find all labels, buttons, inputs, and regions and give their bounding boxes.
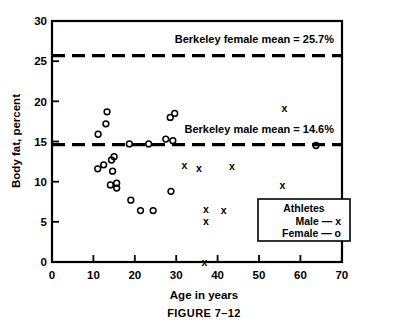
x-axis-title: Age in years	[170, 289, 238, 301]
y-axis-tick-labels: 0 5 10 15 20 25 30	[34, 15, 47, 268]
data-point-female	[170, 138, 176, 144]
female-mean-label: Berkeley female mean = 25.7%	[175, 33, 335, 45]
figure-caption-text: FIGURE 7–12	[167, 307, 240, 319]
data-point-female	[172, 110, 178, 116]
data-point-male: x	[280, 179, 286, 191]
y-axis-title: Body fat, percent	[10, 94, 22, 188]
figure-caption: FIGURE 7–12	[0, 303, 408, 321]
figure-container: 0 5 10 15 20 25 30 0 10 20 30 40 50	[0, 0, 408, 325]
x-tick-label: 70	[335, 269, 348, 281]
data-point-female	[150, 208, 156, 214]
x-tick-label: 60	[294, 269, 307, 281]
x-tick-label: 30	[170, 269, 183, 281]
y-tick-label: 30	[34, 15, 47, 27]
data-point-male: x	[281, 102, 287, 114]
data-point-female	[138, 208, 144, 214]
data-point-female	[126, 141, 132, 147]
male-mean-label: Berkeley male mean = 14.6%	[184, 123, 334, 135]
data-point-male: x	[229, 160, 235, 172]
data-point-female	[163, 136, 169, 142]
y-tick-label: 0	[41, 256, 47, 268]
y-tick-label: 25	[34, 55, 47, 67]
data-point-female	[104, 109, 110, 115]
data-point-female	[103, 121, 109, 127]
legend-title: Athletes	[283, 202, 325, 214]
scatter-plot: 0 5 10 15 20 25 30 0 10 20 30 40 50	[0, 0, 408, 325]
data-point-male: x	[203, 215, 209, 227]
legend-entry-male: Male — x	[295, 215, 341, 227]
data-point-female	[128, 197, 134, 203]
legend-box: Athletes Male — x Female — o	[258, 199, 350, 241]
data-point-female	[110, 168, 116, 174]
x-tick-label: 0	[49, 269, 55, 281]
y-tick-label: 10	[34, 176, 47, 188]
y-tick-label: 15	[34, 136, 47, 148]
data-point-female	[168, 188, 174, 194]
data-point-male: x	[202, 256, 208, 268]
data-point-female	[101, 162, 107, 168]
x-tick-label: 50	[253, 269, 266, 281]
data-point-male: x	[196, 162, 202, 174]
y-tick-label: 20	[34, 96, 47, 108]
data-point-male: x	[181, 159, 187, 171]
x-tick-label: 20	[128, 269, 141, 281]
data-point-female	[146, 141, 152, 147]
legend-entry-female: Female — o	[282, 227, 341, 239]
data-point-male: x	[221, 204, 227, 216]
x-axis-tick-labels: 0 10 20 30 40 50 60 70	[49, 269, 348, 281]
data-point-female	[95, 131, 101, 137]
x-tick-label: 40	[211, 269, 224, 281]
data-point-female	[95, 166, 101, 172]
data-point-female	[107, 182, 113, 188]
x-tick-label: 10	[87, 269, 100, 281]
data-point-male: x	[203, 203, 209, 215]
y-tick-label: 5	[41, 216, 48, 228]
